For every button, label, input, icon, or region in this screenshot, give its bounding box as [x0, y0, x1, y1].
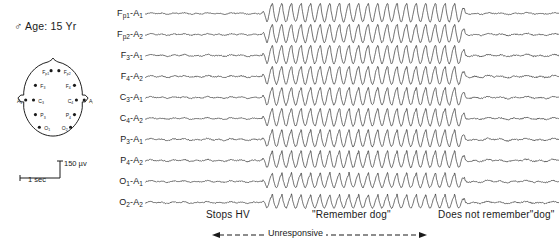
- svg-text:O1: O1: [44, 125, 50, 132]
- channel-row: O1-A1: [96, 171, 559, 192]
- channel-row: O2-A2: [96, 192, 559, 213]
- eeg-figure: ♂ Age: 15 Yr Fp1Fp2F3F4C3C4P3P4O1O2A1A2 …: [0, 0, 559, 246]
- electrode-Fp2: Fp2: [57, 69, 70, 76]
- channel-row: F4-A2: [96, 66, 559, 87]
- svg-text:A2: A2: [89, 98, 93, 105]
- electrode-A1: A1: [17, 98, 27, 105]
- channel-label-Fp1-A1: Fp1-A1: [96, 3, 143, 24]
- channel-label-Fp2-A2: Fp2-A2: [96, 24, 143, 45]
- eeg-trace-O1-A1: [145, 171, 559, 192]
- eeg-trace-F3-A1: [145, 45, 559, 66]
- channel-label-C4-A2: C4-A2: [96, 108, 143, 129]
- patient-info: ♂ Age: 15 Yr: [14, 20, 76, 32]
- electrode-placement-diagram: Fp1Fp2F3F4C3C4P3P4O1O2A1A2: [13, 52, 93, 144]
- channel-row: C4-A2: [96, 108, 559, 129]
- channel-row: P3-A1: [96, 129, 559, 150]
- channel-row: C3-A1: [96, 87, 559, 108]
- svg-text:C3: C3: [38, 98, 44, 105]
- channel-row: Fp2-A2: [96, 24, 559, 45]
- eeg-trace-C4-A2: [145, 108, 559, 129]
- svg-text:P4: P4: [66, 113, 71, 120]
- eeg-trace-O2-A2: [145, 192, 559, 213]
- svg-text:C4: C4: [68, 98, 74, 105]
- channel-label-C3-A1: C3-A1: [96, 87, 143, 108]
- eeg-trace-P3-A1: [145, 129, 559, 150]
- channel-label-P3-A1: P3-A1: [96, 129, 143, 150]
- channel-label-O2-A2: O2-A2: [96, 192, 143, 213]
- channel-row: P4-A2: [96, 150, 559, 171]
- electrode-P3: P3: [34, 113, 46, 120]
- eeg-trace-Fp2-A2: [145, 24, 559, 45]
- sex-symbol-icon: ♂: [14, 20, 22, 32]
- eeg-trace-Fp1-A1: [145, 3, 559, 24]
- electrode-C4: C4: [68, 98, 78, 105]
- channel-label-F4-A2: F4-A2: [96, 66, 143, 87]
- electrode-F3: F3: [34, 83, 46, 90]
- head-outline-icon: Fp1Fp2F3F4C3C4P3P4O1O2A1A2: [13, 52, 93, 144]
- svg-text:F4: F4: [66, 83, 71, 90]
- electrode-Fp1: Fp1: [42, 69, 52, 76]
- left-info-panel: ♂ Age: 15 Yr Fp1Fp2F3F4C3C4P3P4O1O2A1A2 …: [0, 0, 100, 246]
- svg-text:A1: A1: [17, 98, 22, 105]
- svg-text:Fp1: Fp1: [42, 69, 49, 76]
- svg-text:P3: P3: [40, 113, 45, 120]
- channel-row: Fp1-A1: [96, 3, 559, 24]
- eeg-trace-area: Fp1-A1Fp2-A2F3-A1F4-A2C3-A1C4-A2P3-A1P4-…: [96, 0, 559, 246]
- eeg-trace-F4-A2: [145, 66, 559, 87]
- calibration-bar: 150 µv 1 sec: [18, 158, 98, 190]
- channel-row: F3-A1: [96, 45, 559, 66]
- svg-text:Fp2: Fp2: [64, 69, 71, 76]
- eeg-trace-C3-A1: [145, 87, 559, 108]
- calibration-time-label: 1 sec: [28, 175, 46, 184]
- calibration-amplitude-label: 150 µv: [64, 159, 87, 168]
- channel-label-P4-A2: P4-A2: [96, 150, 143, 171]
- svg-text:F3: F3: [40, 83, 45, 90]
- patient-age-label: Age: 15 Yr: [25, 20, 76, 32]
- channel-label-F3-A1: F3-A1: [96, 45, 143, 66]
- svg-text:O2: O2: [62, 125, 68, 132]
- electrode-P4: P4: [66, 113, 76, 120]
- electrode-F4: F4: [66, 83, 76, 90]
- eeg-trace-P4-A2: [145, 150, 559, 171]
- electrode-O1: O1: [38, 125, 50, 132]
- channel-label-O1-A1: O1-A1: [96, 171, 143, 192]
- electrode-C3: C3: [32, 98, 44, 105]
